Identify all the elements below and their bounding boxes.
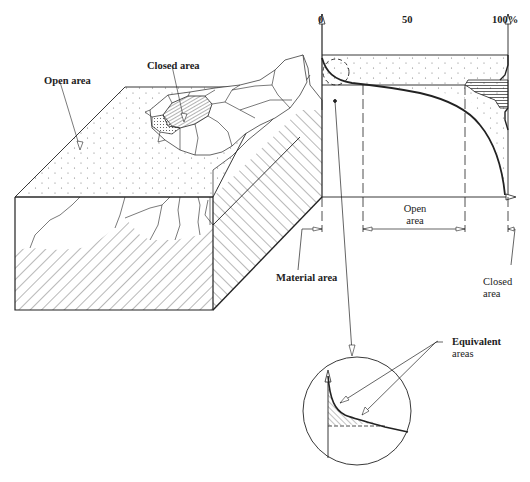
label-closed-area-top: Closed area <box>147 60 200 72</box>
label-closed-area-dim-line1: Closed <box>483 276 512 288</box>
detail-inset <box>303 341 443 465</box>
label-equivalent-line1: Equivalent <box>452 336 501 348</box>
axis-tick-100: 100% <box>492 14 518 26</box>
label-equivalent-areas: Equivalent areas <box>452 336 501 360</box>
label-open-area-dim-line1: Open <box>395 203 435 215</box>
axis-tick-50: 50 <box>402 14 413 26</box>
axis-tick-0: 0 <box>318 14 323 26</box>
diagram-canvas: Open area Closed area 0 50 100% Open are… <box>0 0 530 482</box>
label-material-area: Material area <box>276 272 337 284</box>
label-closed-area-dim: Closed area <box>483 276 512 300</box>
label-closed-area-dim-line2: area <box>483 288 512 300</box>
diagram-svg <box>0 0 530 482</box>
label-open-area: Open area <box>44 75 91 87</box>
label-open-area-dim: Open area <box>395 203 435 227</box>
label-open-area-dim-line2: area <box>395 215 435 227</box>
porosity-chart <box>298 14 516 356</box>
label-equivalent-line2: areas <box>452 348 501 360</box>
